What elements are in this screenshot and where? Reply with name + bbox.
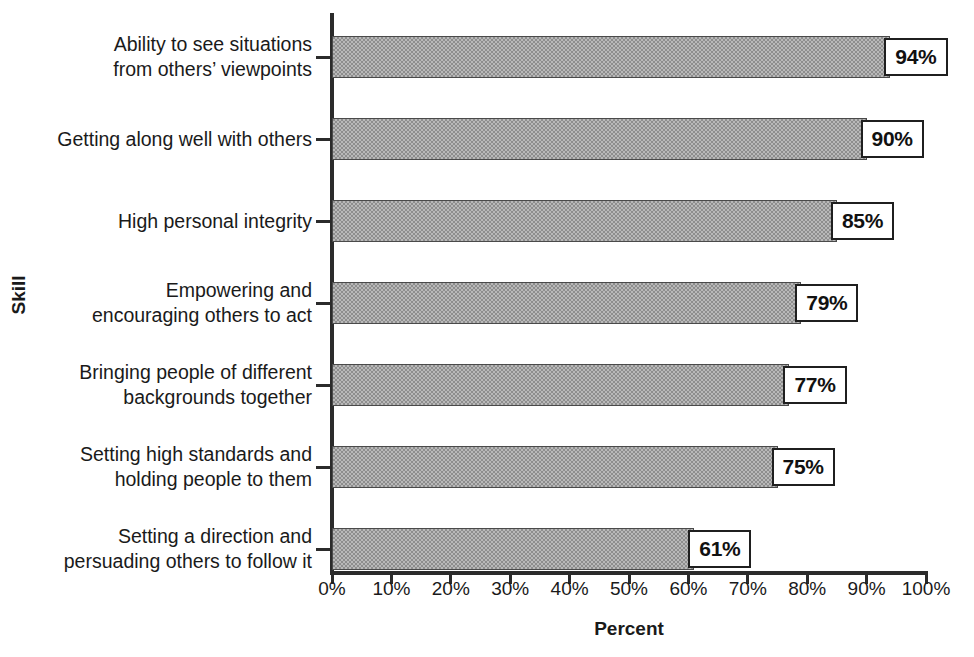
bar xyxy=(332,364,789,406)
y-axis-tick xyxy=(316,548,332,551)
plot-area: 94%90%85%79%77%75%61% xyxy=(332,13,926,573)
category-label: Empowering and encouraging others to act xyxy=(38,278,312,328)
bar-value-label: 90% xyxy=(861,120,924,158)
bar xyxy=(332,200,837,242)
bar xyxy=(332,282,801,324)
x-axis-tick-label: 0% xyxy=(318,578,345,600)
x-axis-tick-label: 70% xyxy=(729,578,767,600)
bar-value-label: 85% xyxy=(831,202,894,240)
x-axis-title-text: Percent xyxy=(594,618,664,639)
y-axis-tick xyxy=(316,384,332,387)
y-axis-tick xyxy=(316,302,332,305)
bar xyxy=(332,118,867,160)
x-axis-title: Percent xyxy=(332,618,926,640)
bar-value-label: 79% xyxy=(795,284,858,322)
bar-value-label: 94% xyxy=(884,38,947,76)
y-axis-title-text: Skill xyxy=(8,275,30,314)
bar-chart: Skill Ability to see situations from oth… xyxy=(0,0,974,657)
category-label: Bringing people of different backgrounds… xyxy=(38,360,312,410)
category-label-column: Ability to see situations from others’ v… xyxy=(38,13,322,573)
category-label: Ability to see situations from others’ v… xyxy=(38,32,312,82)
y-axis-title: Skill xyxy=(0,255,38,335)
y-axis-tick xyxy=(316,220,332,223)
category-label: Getting along well with others xyxy=(38,127,312,152)
x-axis-tick-label: 30% xyxy=(491,578,529,600)
category-label: High personal integrity xyxy=(38,209,312,234)
x-axis-tick-labels: 0%10%20%30%40%50%60%70%80%90%100% xyxy=(332,578,926,606)
bar xyxy=(332,446,778,488)
bar xyxy=(332,36,890,78)
x-axis-tick-label: 80% xyxy=(788,578,826,600)
x-axis-tick-label: 60% xyxy=(669,578,707,600)
bar-value-label: 61% xyxy=(688,530,751,568)
bar-value-label: 75% xyxy=(772,448,835,486)
x-axis-tick-label: 10% xyxy=(372,578,410,600)
category-label: Setting a direction and persuading other… xyxy=(38,524,312,574)
category-label: Setting high standards and holding peopl… xyxy=(38,442,312,492)
x-axis-tick-label: 20% xyxy=(432,578,470,600)
x-axis-tick-label: 50% xyxy=(610,578,648,600)
bar-value-label: 77% xyxy=(783,366,846,404)
bar xyxy=(332,528,694,570)
x-axis-tick-label: 100% xyxy=(902,578,951,600)
x-axis-tick-label: 90% xyxy=(848,578,886,600)
y-axis-tick xyxy=(316,138,332,141)
y-axis-tick xyxy=(316,56,332,59)
y-axis-tick xyxy=(316,466,332,469)
x-axis-tick-label: 40% xyxy=(551,578,589,600)
